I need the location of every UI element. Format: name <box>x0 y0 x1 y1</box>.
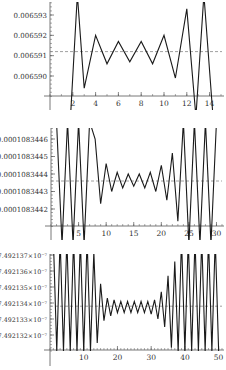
y-tick-label: 0.006593 <box>14 12 47 20</box>
y-tick-label: 0.0001083445 <box>0 153 48 161</box>
y-tick-label: 0.0001083446 <box>0 136 49 144</box>
x-tick-label: 8 <box>139 99 144 108</box>
x-tick-label: 40 <box>180 353 190 362</box>
y-tick-label: 7.492136×10⁻⁷ <box>0 268 47 275</box>
y-tick-label: 0.0001083444 <box>0 171 49 179</box>
x-tick-label: 4 <box>93 99 98 108</box>
chart-panel-2: 0.00010834420.00010834430.00010834440.00… <box>0 122 224 245</box>
chart-panel-1: 0.0065900.0065910.0065920.00659324681012… <box>14 0 224 117</box>
y-tick-label: 7.492132×10⁻⁷ <box>0 332 47 339</box>
x-tick-label: 10 <box>79 353 89 362</box>
y-tick-label: 7.492134×10⁻⁷ <box>0 300 47 307</box>
x-tick-label: 10 <box>101 229 111 238</box>
y-tick-label: 7.492133×10⁻⁷ <box>0 316 47 323</box>
y-tick-label: 0.006590 <box>14 73 47 81</box>
chart-stack: 0.0065900.0065910.0065920.00659324681012… <box>0 0 226 370</box>
x-tick-label: 30 <box>212 229 222 238</box>
x-tick-label: 50 <box>214 353 224 362</box>
x-tick-label: 30 <box>146 353 156 362</box>
x-tick-label: 14 <box>205 99 215 108</box>
x-tick-label: 12 <box>182 99 192 108</box>
x-tick-label: 15 <box>129 229 139 238</box>
y-tick-label: 0.006591 <box>14 52 47 60</box>
x-tick-label: 6 <box>116 99 121 108</box>
x-tick-label: 5 <box>76 229 81 238</box>
y-tick-label: 7.492135×10⁻⁷ <box>0 284 47 291</box>
y-tick-label: 7.492137×10⁻⁷ <box>0 252 47 259</box>
x-tick-label: 20 <box>157 229 167 238</box>
y-tick-label: 0.0001083443 <box>0 188 48 196</box>
chart-panel-3: 7.492132×10⁻⁷7.492133×10⁻⁷7.492134×10⁻⁷7… <box>0 239 224 366</box>
data-series-line <box>53 239 218 351</box>
y-tick-label: 0.006592 <box>14 32 47 40</box>
x-tick-label: 10 <box>159 99 169 108</box>
y-tick-label: 0.0001083442 <box>0 206 48 214</box>
x-tick-label: 20 <box>113 353 123 362</box>
